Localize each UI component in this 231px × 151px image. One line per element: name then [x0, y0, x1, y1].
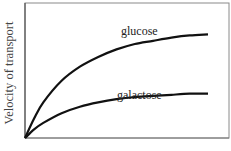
glucose-curve [25, 34, 208, 138]
y-axis-label: Velocity of transport [2, 21, 16, 124]
galactose-label: galactose [117, 88, 162, 102]
glucose-label: glucose [121, 24, 158, 38]
chart: Velocity of transport glucose galactose [0, 0, 231, 151]
